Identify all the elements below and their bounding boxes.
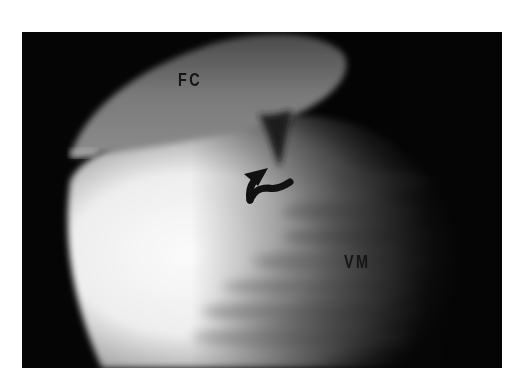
curved-arrow-icon bbox=[22, 32, 502, 368]
label-vm: VM bbox=[344, 252, 370, 273]
arthroscopic-image: FC VM bbox=[22, 32, 502, 368]
label-fc: FC bbox=[178, 70, 202, 91]
